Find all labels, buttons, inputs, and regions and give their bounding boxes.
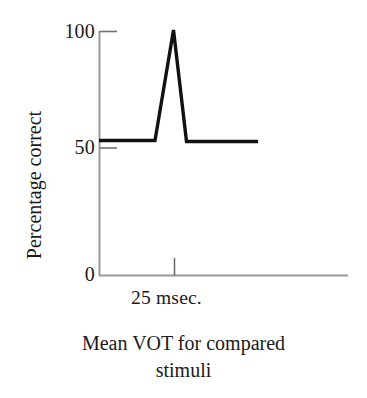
data-series-line	[99, 30, 258, 142]
y-axis-tick-label-100: 100	[64, 21, 95, 41]
y-axis-tick-label-0: 0	[85, 264, 95, 284]
figure-container: 100 50 0 25 msec. Percentage correct Mea…	[0, 0, 367, 398]
figure-caption: Mean VOT for compared stimuli	[0, 330, 367, 384]
plot-area: 100 50 0 25 msec. Percentage correct	[0, 0, 367, 320]
caption-line-2: stimuli	[0, 357, 367, 384]
y-axis-title: Percentage correct	[19, 65, 49, 305]
caption-line-1: Mean VOT for compared	[0, 330, 367, 357]
y-axis-tick-label-50: 50	[75, 137, 95, 157]
chart-svg	[0, 0, 367, 320]
x-axis-tick-label-25msec: 25 msec.	[131, 288, 202, 308]
